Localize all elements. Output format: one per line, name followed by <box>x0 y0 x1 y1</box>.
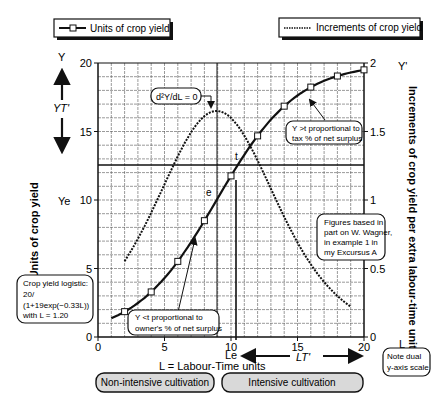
y2-tick-label: 1 <box>370 194 376 206</box>
square-marker-icon <box>334 73 340 79</box>
legend-square-marker-icon <box>70 25 76 31</box>
x-tick-label: 5 <box>161 341 167 353</box>
below-t-annotation: Y <t proportional to owner's % of net su… <box>128 239 222 335</box>
y-tick-label: 15 <box>80 126 92 138</box>
yt-label: YT' <box>53 102 70 114</box>
svg-text:owner's % of net surplus: owner's % of net surplus <box>135 324 222 333</box>
chart-canvas: Units of crop yield Increments of crop y… <box>0 0 447 406</box>
y-tick-label: 0 <box>86 331 92 343</box>
svg-text:(1+19exp(−0.33L)): (1+19exp(−0.33L)) <box>23 301 90 310</box>
non-intensive-box: Non-intensive cultivation <box>96 373 214 392</box>
svg-text:Note dual: Note dual <box>387 352 421 361</box>
svg-text:in example 1 in: in example 1 in <box>324 238 378 247</box>
svg-text:with L = 1.20: with L = 1.20 <box>22 311 69 320</box>
x-tick-label: 20 <box>358 341 370 353</box>
y2-tick-label: 0.5 <box>370 263 385 275</box>
legend-units-label: Units of crop yield <box>90 23 169 34</box>
svg-text:Figures based in: Figures based in <box>324 218 383 227</box>
svg-text:Non-intensive cultivation: Non-intensive cultivation <box>101 377 209 388</box>
units-curve <box>111 70 364 318</box>
svg-text:d²Y/dL = 0: d²Y/dL = 0 <box>156 92 197 102</box>
svg-text:part on W. Wagner,: part on W. Wagner, <box>324 228 392 237</box>
y-tick-label: 5 <box>86 263 92 275</box>
lt-label: LT' <box>296 351 311 363</box>
svg-text:20/: 20/ <box>23 290 35 299</box>
square-marker-icon <box>255 133 261 139</box>
svg-text:Y <t proportional to: Y <t proportional to <box>135 313 203 322</box>
y2-tick-label: 0 <box>370 331 376 343</box>
y2-tick-label: 1.5 <box>370 126 385 138</box>
square-marker-icon <box>281 103 287 109</box>
y2-axis-label: Increments of crop yield per extra labou… <box>407 86 419 349</box>
point-t-label: t <box>235 151 238 162</box>
square-marker-icon <box>122 309 128 315</box>
y2-tick-label: 2 <box>370 57 376 69</box>
square-marker-icon <box>361 67 367 73</box>
svg-text:Intensive cultivation: Intensive cultivation <box>248 377 335 388</box>
square-marker-icon <box>201 218 207 224</box>
chart-grid <box>98 63 364 337</box>
dual-axis-note: Note dual y-axis scale <box>383 348 430 376</box>
above-t-annotation: Y >t proportional to tax % of net surplu… <box>286 100 362 144</box>
source-annotation: Figures based in part on W. Wagner, in e… <box>317 214 392 260</box>
svg-text:Crop yield logistic:: Crop yield logistic: <box>23 279 88 288</box>
square-marker-icon <box>228 173 234 179</box>
svg-text:Y >t proportional to: Y >t proportional to <box>292 124 360 133</box>
legend-increments: Increments of crop yield <box>279 18 423 40</box>
svg-text:y-axis scale: y-axis scale <box>387 363 429 372</box>
svg-text:my Excursus A: my Excursus A <box>324 248 378 257</box>
square-marker-icon <box>308 84 314 90</box>
legend-increments-label: Increments of crop yield <box>316 22 422 33</box>
y-tick-label: 10 <box>80 194 92 206</box>
x-axis-label: L = Labour-Time units <box>159 360 266 372</box>
square-marker-icon <box>148 289 154 295</box>
formula-annotation: Crop yield logistic: 20/ (1+19exp(−0.33L… <box>17 275 93 323</box>
y-axis-top-label: Y <box>58 51 66 63</box>
square-marker-icon <box>175 258 181 264</box>
legend-units: Units of crop yield <box>54 19 173 40</box>
x-tick-label: 0 <box>95 341 101 353</box>
intensive-box: Intensive cultivation <box>222 373 363 392</box>
point-e-label: e <box>206 187 212 198</box>
y-tick-label: 20 <box>80 57 92 69</box>
ye-label: Ye <box>58 195 70 207</box>
y2-axis-top-label: Y' <box>398 60 407 72</box>
svg-text:tax % of net surplus: tax % of net surplus <box>292 134 362 143</box>
